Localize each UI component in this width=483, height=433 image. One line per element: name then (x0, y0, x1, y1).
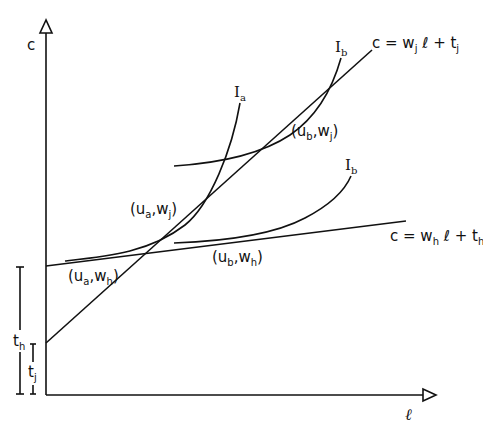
indifference-curve-Ib-lower (174, 176, 351, 243)
curve-Ib-lower-label: Ib (345, 156, 357, 176)
point-ub-wj-label: (ub,wj) (291, 122, 338, 142)
budget-line-j-label: c = wj ℓ + tj (372, 34, 459, 54)
budget-line-j (46, 50, 372, 343)
indifference-curve-Ib-upper (174, 58, 341, 166)
y-axis-arrow-icon (40, 20, 52, 33)
curve-Ia-label: Ia (234, 83, 246, 103)
curve-Ib-upper-label: Ib (335, 38, 347, 58)
point-ub-wh-label: (ub,wh) (212, 248, 263, 268)
indifference-curve-Ia (65, 103, 240, 261)
point-ua-wh-label: (ua,wh) (68, 267, 119, 287)
intercept-th-bracket (16, 267, 24, 394)
x-axis-label: ℓ (405, 405, 412, 424)
budget-line-h-label: c = wh ℓ + th (390, 227, 483, 247)
intercept-th-label: th (13, 332, 25, 352)
intercept-tj-label: tj (28, 363, 37, 383)
x-axis-arrow-icon (423, 389, 436, 401)
labor-leisure-diagram: c ℓ c = wj ℓ + tj c = wh ℓ + th Ia Ib Ib… (0, 0, 483, 433)
y-axis-label: c (27, 36, 35, 54)
point-ua-wj-label: (ua,wj) (130, 200, 177, 220)
